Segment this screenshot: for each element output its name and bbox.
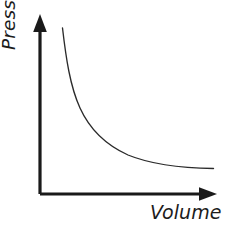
pressure-volume-curve [63,28,214,169]
y-axis-label: Pressure [0,22,30,112]
pressure-volume-figure: Pressure Volume [0,0,225,227]
plot-area [0,0,225,227]
volume-axis-arrow-icon [199,187,217,201]
y-axis-label-text: Pressure [0,0,19,50]
x-axis-label: Volume [150,203,222,222]
pressure-axis-arrow-icon [33,14,47,32]
